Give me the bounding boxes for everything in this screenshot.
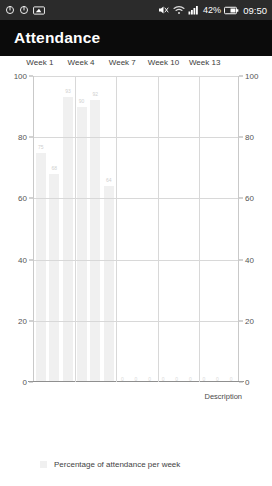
chart-gridline-vertical	[116, 76, 117, 382]
attendance-bar-chart: Week 1Week 4Week 7Week 10Week 13 0204060…	[0, 56, 272, 430]
chart-bar-cell[interactable]: 92	[88, 76, 102, 382]
chart-baseline	[28, 381, 244, 382]
y-axis-tick-label-right: 20	[245, 316, 254, 325]
chart-bar-cell[interactable]: 0	[129, 76, 143, 382]
chart-bar[interactable]: 64	[104, 186, 114, 382]
chart-bar-cell[interactable]: 68	[48, 76, 62, 382]
chart-gridline	[34, 76, 238, 77]
app-bar: Attendance	[0, 20, 272, 56]
legend-color-swatch	[40, 461, 47, 468]
chart-bar-cell[interactable]: 0	[224, 76, 238, 382]
chart-bars: 756893909264000000000	[34, 76, 238, 382]
y-axis-tick-label-left: 40	[18, 255, 27, 264]
sync-rotate-icon-2	[19, 5, 29, 15]
y-axis-tick-left	[29, 137, 33, 138]
chart-bar-cell[interactable]: 0	[143, 76, 157, 382]
signal-bars-icon	[188, 5, 200, 15]
battery-icon	[224, 6, 239, 15]
chart-bar-cell[interactable]: 0	[116, 76, 130, 382]
chart-y-axis-left: 020406080100	[2, 76, 30, 382]
y-axis-tick-left	[29, 76, 33, 77]
chart-bar-value-label: 93	[65, 88, 71, 94]
chart-bar-cell[interactable]: 0	[170, 76, 184, 382]
chart-gridline-vertical	[199, 76, 200, 382]
chart-gridline	[34, 260, 238, 261]
chart-bar-value-label: 92	[92, 91, 98, 97]
chart-bar-cell[interactable]: 93	[61, 76, 75, 382]
y-axis-tick-right	[239, 382, 243, 383]
y-axis-tick-label-right: 60	[245, 194, 254, 203]
chart-bar-value-label: 64	[106, 177, 112, 183]
y-axis-tick-right	[239, 320, 243, 321]
y-axis-tick-label-right: 100	[245, 72, 258, 81]
chart-y-axis-right: 020406080100	[242, 76, 270, 382]
y-axis-tick-label-left: 60	[18, 194, 27, 203]
chart-x-axis-top: Week 1Week 4Week 7Week 10Week 13	[0, 56, 272, 72]
battery-percent-label: 42%	[203, 5, 221, 15]
chart-bar[interactable]: 90	[77, 107, 87, 382]
y-axis-tick-right	[239, 198, 243, 199]
y-axis-tick-label-right: 80	[245, 133, 254, 142]
y-axis-tick-label-left: 0	[23, 378, 27, 387]
y-axis-tick-label-left: 20	[18, 316, 27, 325]
y-axis-tick-label-right: 0	[245, 378, 249, 387]
x-axis-tick-label: Week 1	[26, 58, 53, 67]
chart-bar-value-label: 90	[79, 98, 85, 104]
screenshot-icon	[33, 6, 45, 15]
chart-gridline-vertical	[158, 76, 159, 382]
chart-bar[interactable]: 68	[49, 174, 59, 382]
chart-gridline	[34, 198, 238, 199]
y-axis-tick-right	[239, 76, 243, 77]
y-axis-tick-left	[29, 382, 33, 383]
chart-plot-area: 756893909264000000000	[33, 76, 239, 382]
x-axis-tick-label: Week 4	[68, 58, 95, 67]
chart-gridline	[34, 137, 238, 138]
chart-bar[interactable]: 93	[63, 97, 73, 382]
chart-x-axis-label: Description	[204, 392, 242, 401]
y-axis-tick-left	[29, 320, 33, 321]
chart-bar[interactable]: 92	[90, 100, 100, 382]
status-bar-right-icons: 42% 09:50	[158, 5, 267, 16]
chart-bar-cell[interactable]: 0	[184, 76, 198, 382]
wifi-icon	[173, 5, 185, 15]
x-axis-tick-label: Week 13	[189, 58, 220, 67]
y-axis-tick-label-left: 80	[18, 133, 27, 142]
x-axis-tick-label: Week 7	[109, 58, 136, 67]
y-axis-tick-left	[29, 198, 33, 199]
chart-gridline-vertical	[75, 76, 76, 382]
chart-bar-cell[interactable]: 0	[211, 76, 225, 382]
chart-bar[interactable]: 75	[36, 153, 46, 383]
legend-label: Percentage of attendance per week	[54, 460, 180, 469]
status-bar-left-icons	[5, 5, 45, 15]
chart-legend: Percentage of attendance per week	[0, 460, 272, 469]
y-axis-tick-left	[29, 259, 33, 260]
y-axis-tick-right	[239, 137, 243, 138]
x-axis-tick-label: Week 10	[148, 58, 179, 67]
chart-bar-value-label: 68	[52, 165, 58, 171]
y-axis-tick-label-right: 40	[245, 255, 254, 264]
chart-bar-cell[interactable]: 75	[34, 76, 48, 382]
y-axis-tick-right	[239, 259, 243, 260]
y-axis-tick-label-left: 100	[14, 72, 27, 81]
page-title: Attendance	[14, 29, 100, 47]
status-bar: 42% 09:50	[0, 0, 272, 20]
chart-bar-cell[interactable]: 64	[102, 76, 116, 382]
chart-gridline	[34, 321, 238, 322]
chart-bar-value-label: 75	[38, 144, 44, 150]
volume-muted-icon	[158, 5, 170, 15]
clock-label: 09:50	[242, 5, 267, 16]
sync-rotate-icon	[5, 5, 15, 15]
chart-bar-cell[interactable]: 90	[75, 76, 89, 382]
